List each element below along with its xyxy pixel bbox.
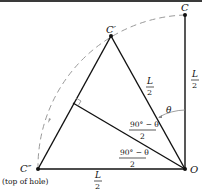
svg-text:2: 2 xyxy=(192,81,197,90)
length-label-OC-prime: L 2 xyxy=(146,76,154,97)
length-label-OC: L 2 xyxy=(191,69,199,90)
half-angle-label-upper: 90° − θ 2 xyxy=(129,120,159,141)
svg-text:2: 2 xyxy=(95,182,100,190)
half-angle-label-lower: 90° − θ 2 xyxy=(119,148,149,169)
svg-text:2: 2 xyxy=(147,88,152,97)
label-top-of-hole: (top of hole) xyxy=(2,177,48,186)
point-O xyxy=(183,167,187,171)
svg-text:90° − θ: 90° − θ xyxy=(120,148,149,157)
point-C xyxy=(183,13,187,17)
svg-text:L: L xyxy=(191,69,198,79)
svg-text:2: 2 xyxy=(140,132,145,141)
label-O: O xyxy=(190,164,198,175)
arc-arrow-icon xyxy=(48,118,51,123)
point-C-double-prime xyxy=(36,167,40,171)
geometry-diagram: C C′ C″ O (top of hole) L 2 L 2 L 2 θ 90… xyxy=(0,0,202,190)
theta-arc xyxy=(159,110,185,117)
svg-text:2: 2 xyxy=(130,160,135,169)
length-label-base: L 2 xyxy=(94,170,102,190)
svg-text:L: L xyxy=(94,170,101,180)
label-C: C xyxy=(181,2,189,13)
label-C-prime: C′ xyxy=(106,24,117,35)
label-C-double-prime: C″ xyxy=(20,163,32,174)
svg-text:90° − θ: 90° − θ xyxy=(130,120,159,129)
svg-text:L: L xyxy=(146,76,153,86)
segment-C-prime-C-double-prime xyxy=(38,36,111,169)
label-theta: θ xyxy=(166,105,172,115)
